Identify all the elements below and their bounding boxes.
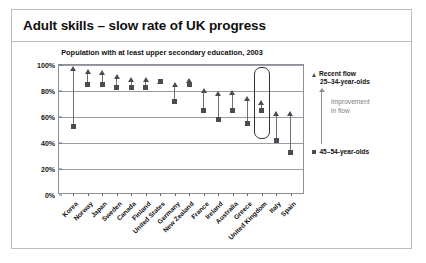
x-axis-tick-mark — [276, 193, 277, 196]
square-marker-icon — [114, 85, 119, 90]
square-marker-icon — [245, 121, 250, 126]
square-marker-icon — [230, 108, 235, 113]
y-axis-tick-mark — [59, 143, 62, 144]
square-marker-icon — [158, 79, 163, 84]
triangle-marker-icon — [201, 88, 207, 93]
square-marker-icon — [100, 82, 105, 87]
x-axis-tick-mark — [262, 193, 263, 196]
uk-highlight-box — [254, 67, 270, 139]
square-marker-icon — [71, 124, 76, 129]
y-axis-tick-mark — [59, 117, 62, 118]
square-marker-icon — [288, 150, 293, 155]
triangle-marker-icon — [70, 66, 76, 71]
y-axis-tick-mark — [59, 65, 62, 66]
legend-recent-flow-sublabel: 25–34-year-olds — [312, 78, 410, 86]
chart-title: Population with at least upper secondary… — [12, 48, 312, 57]
y-axis-tick-label: 60% — [41, 114, 55, 121]
square-marker-icon — [216, 117, 221, 122]
x-axis-tick-mark — [247, 193, 248, 196]
legend-older-label: 45–54-year-olds — [319, 148, 369, 156]
triangle-marker-icon — [229, 90, 235, 95]
x-axis-tick-mark — [218, 193, 219, 196]
x-axis-tick-mark — [146, 193, 147, 196]
triangle-marker-icon — [114, 74, 120, 79]
y-axis-tick-mark — [59, 169, 62, 170]
chart-legend: Recent flow 25–34-year-olds Improvement … — [312, 70, 410, 87]
square-marker-icon — [201, 108, 206, 113]
triangle-marker-icon — [287, 111, 293, 116]
square-marker-icon — [172, 99, 177, 104]
x-axis-tick-mark — [204, 193, 205, 196]
triangle-marker-icon — [312, 73, 316, 77]
x-axis-label: Spain — [279, 200, 297, 218]
gridline — [59, 143, 303, 144]
square-marker-icon — [187, 82, 192, 87]
triangle-marker-icon — [128, 77, 134, 82]
x-axis-tick-mark — [233, 193, 234, 196]
legend-item-recent-flow: Recent flow — [312, 70, 410, 78]
x-axis-tick-mark — [189, 193, 190, 196]
gridline — [59, 169, 303, 170]
improvement-connector — [290, 115, 291, 152]
legend-item-older: 45–54-year-olds — [312, 148, 369, 156]
legend-improvement-line1: Improvement — [331, 98, 369, 107]
x-axis-tick-mark — [175, 193, 176, 196]
legend-recent-flow-label: Recent flow — [319, 70, 356, 78]
triangle-marker-icon — [85, 69, 91, 74]
improvement-arrow-icon — [321, 92, 322, 144]
plot-area: 0%20%40%60%80%100% — [58, 64, 304, 194]
legend-improvement-line2: in flow — [331, 107, 369, 116]
square-marker-icon — [129, 85, 134, 90]
y-axis-tick-label: 40% — [41, 140, 55, 147]
improvement-connector — [276, 115, 277, 140]
page-title: Adult skills – slow rate of UK progress — [12, 18, 266, 33]
x-axis-tick-mark — [131, 193, 132, 196]
triangle-marker-icon — [244, 96, 250, 101]
legend-improvement-note: Improvement in flow — [331, 98, 369, 115]
y-axis-tick-label: 0% — [45, 192, 55, 199]
x-axis-tick-mark — [73, 193, 74, 196]
triangle-marker-icon — [273, 111, 279, 116]
y-axis-tick-mark — [59, 91, 62, 92]
improvement-connector — [218, 96, 219, 120]
triangle-marker-icon — [172, 82, 178, 87]
triangle-marker-icon — [215, 91, 221, 96]
square-marker-icon — [312, 150, 316, 154]
x-axis-tick-mark — [88, 193, 89, 196]
y-axis-tick-mark — [59, 195, 62, 196]
slide-frame: Adult skills – slow rate of UK progress … — [11, 9, 412, 249]
x-axis-tick-mark — [117, 193, 118, 196]
x-axis-tick-mark — [291, 193, 292, 196]
y-axis-tick-label: 20% — [41, 166, 55, 173]
square-marker-icon — [143, 85, 148, 90]
y-axis-tick-label: 80% — [41, 88, 55, 95]
chart-container: Population with at least upper secondary… — [12, 42, 413, 249]
square-marker-icon — [274, 138, 279, 143]
x-axis-tick-mark — [160, 193, 161, 196]
gridline — [59, 65, 303, 66]
x-axis-tick-mark — [102, 193, 103, 196]
square-marker-icon — [85, 82, 90, 87]
y-axis-tick-label: 100% — [37, 62, 55, 69]
triangle-marker-icon — [99, 70, 105, 75]
slide-title-bar: Adult skills – slow rate of UK progress — [12, 10, 411, 42]
triangle-marker-icon — [143, 77, 149, 82]
improvement-connector — [73, 71, 74, 126]
